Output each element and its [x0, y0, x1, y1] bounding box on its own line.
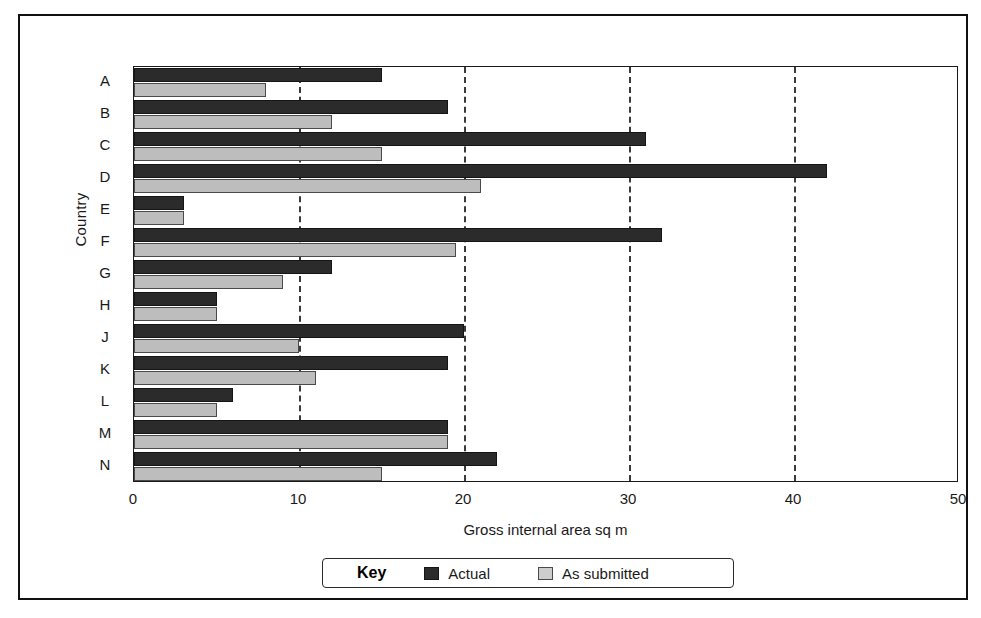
bar-M-as-submitted	[134, 435, 448, 449]
y-tick-label-N: N	[88, 456, 122, 473]
legend-entry-as-submitted: As submitted	[538, 565, 649, 582]
bar-C-as-submitted	[134, 147, 382, 161]
bar-A-as-submitted	[134, 83, 266, 97]
bar-group-L	[134, 387, 957, 419]
x-axis-title: Gross internal area sq m	[133, 521, 958, 538]
y-tick-label-J: J	[88, 328, 122, 345]
y-tick-label-E: E	[88, 200, 122, 217]
bar-D-as-submitted	[134, 179, 481, 193]
bar-group-J	[134, 323, 957, 355]
bar-group-K	[134, 355, 957, 387]
bar-F-actual	[134, 228, 662, 242]
bar-group-C	[134, 131, 957, 163]
bar-group-M	[134, 419, 957, 451]
legend-label-actual: Actual	[448, 565, 490, 582]
figure-frame: Country ABCDEFGHJKLMN 01020304050 Gross …	[18, 14, 968, 600]
x-tick-label-0: 0	[103, 490, 163, 507]
bar-group-B	[134, 99, 957, 131]
y-tick-label-C: C	[88, 136, 122, 153]
legend-swatch-as-submitted-icon	[538, 567, 553, 580]
bar-group-G	[134, 259, 957, 291]
y-tick-label-D: D	[88, 168, 122, 185]
y-tick-label-K: K	[88, 360, 122, 377]
legend: Key Actual As submitted	[322, 558, 734, 588]
bar-group-H	[134, 291, 957, 323]
bar-group-N	[134, 451, 957, 483]
y-tick-label-M: M	[88, 424, 122, 441]
legend-swatch-actual-icon	[424, 567, 439, 580]
bar-K-as-submitted	[134, 371, 316, 385]
bar-J-as-submitted	[134, 339, 299, 353]
bar-J-actual	[134, 324, 464, 338]
plot-area	[133, 66, 958, 482]
bar-G-as-submitted	[134, 275, 283, 289]
bar-group-E	[134, 195, 957, 227]
bar-L-as-submitted	[134, 403, 217, 417]
bar-D-actual	[134, 164, 827, 178]
bar-K-actual	[134, 356, 448, 370]
bar-group-F	[134, 227, 957, 259]
bar-group-D	[134, 163, 957, 195]
bar-C-actual	[134, 132, 646, 146]
bar-L-actual	[134, 388, 233, 402]
y-tick-label-B: B	[88, 104, 122, 121]
bar-B-as-submitted	[134, 115, 332, 129]
bar-H-as-submitted	[134, 307, 217, 321]
bar-F-as-submitted	[134, 243, 456, 257]
y-tick-label-L: L	[88, 392, 122, 409]
bar-N-as-submitted	[134, 467, 382, 481]
y-tick-label-G: G	[88, 264, 122, 281]
bar-E-actual	[134, 196, 184, 210]
bar-N-actual	[134, 452, 497, 466]
y-tick-label-F: F	[88, 232, 122, 249]
bar-M-actual	[134, 420, 448, 434]
legend-label-as-submitted: As submitted	[562, 565, 649, 582]
bar-group-A	[134, 67, 957, 99]
bar-G-actual	[134, 260, 332, 274]
bar-H-actual	[134, 292, 217, 306]
y-tick-label-H: H	[88, 296, 122, 313]
legend-entry-actual: Actual	[424, 565, 490, 582]
x-tick-label-50: 50	[928, 490, 981, 507]
y-tick-label-A: A	[88, 72, 122, 89]
bar-A-actual	[134, 68, 382, 82]
y-axis-title: Country	[72, 160, 89, 280]
x-tick-label-40: 40	[763, 490, 823, 507]
bar-B-actual	[134, 100, 448, 114]
x-tick-label-20: 20	[433, 490, 493, 507]
legend-key-label: Key	[357, 564, 386, 582]
x-tick-label-30: 30	[598, 490, 658, 507]
x-tick-label-10: 10	[268, 490, 328, 507]
bar-E-as-submitted	[134, 211, 184, 225]
